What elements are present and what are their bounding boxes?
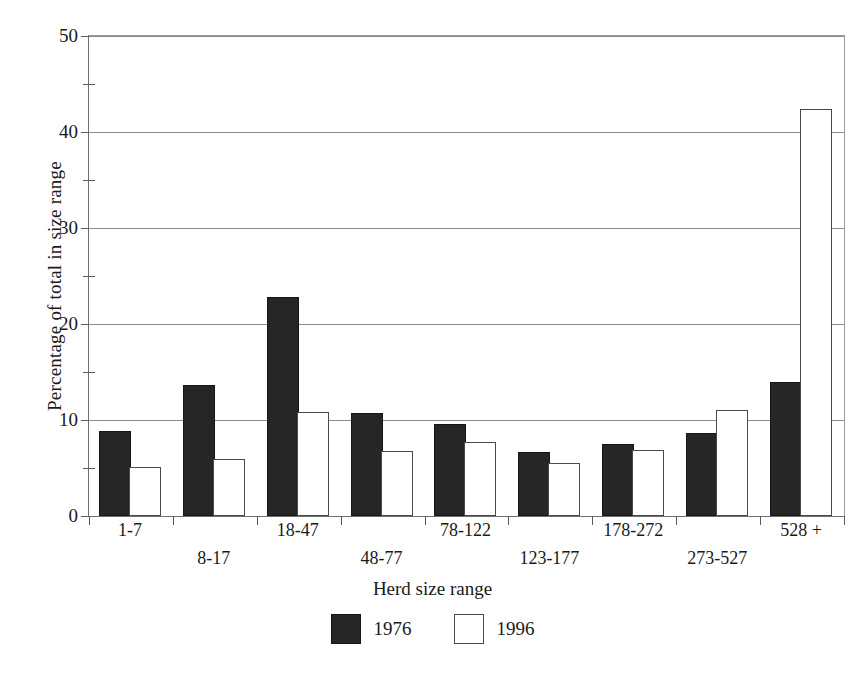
x-tick (341, 516, 342, 525)
x-axis-label-273-527: 273-527 (687, 548, 747, 569)
x-axis-label-8-17: 8-17 (197, 548, 230, 569)
bar-1996-528+ (800, 109, 832, 516)
y-tick-label-40: 40 (59, 121, 78, 143)
x-axis-label-48-77: 48-77 (361, 548, 403, 569)
bar-group (676, 36, 760, 516)
x-tick (592, 516, 593, 525)
x-axis-label-1-7: 1-7 (118, 520, 142, 541)
bar-group (89, 36, 173, 516)
x-tick (844, 516, 845, 525)
y-tick-20 (81, 324, 89, 325)
bar-1976-528+ (770, 382, 802, 516)
x-axis-title: Herd size range (0, 578, 865, 600)
legend-label-1996: 1996 (497, 618, 535, 640)
y-tick-40 (81, 132, 89, 133)
legend-item-1976: 1976 (331, 614, 412, 644)
y-tick-label-20: 20 (59, 313, 78, 335)
bar-group (760, 36, 844, 516)
y-tick-label-30: 30 (59, 217, 78, 239)
y-tick-50 (81, 36, 89, 37)
bar-group (341, 36, 425, 516)
y-tick-0 (81, 516, 89, 517)
y-tick-label-10: 10 (59, 409, 78, 431)
plot-area: 01020304050 (88, 35, 845, 517)
y-tick-10 (81, 420, 89, 421)
y-tick-label-50: 50 (59, 25, 78, 47)
bar-1976-78-122 (434, 424, 466, 516)
x-axis-label-178-272: 178-272 (603, 520, 663, 541)
bar-1976-1-7 (99, 431, 131, 516)
bar-1996-8-17 (213, 459, 245, 516)
bar-group (592, 36, 676, 516)
bar-1996-48-77 (381, 451, 413, 516)
x-tick (425, 516, 426, 525)
x-axis-label-78-122: 78-122 (440, 520, 491, 541)
x-axis-label-528+: 528 + (780, 520, 822, 541)
bar-1976-178-272 (602, 444, 634, 516)
chart-legend: 19761996 (0, 614, 865, 644)
bar-1996-273-527 (716, 410, 748, 516)
bar-1996-1-7 (129, 467, 161, 516)
y-axis-title: Percentage of total in size range (44, 46, 66, 526)
bar-chart: Percentage of total in size range 010203… (0, 0, 865, 688)
legend-item-1996: 1996 (454, 614, 535, 644)
bar-group (173, 36, 257, 516)
bar-1976-273-527 (686, 433, 718, 516)
x-tick (173, 516, 174, 525)
y-tick-label-0: 0 (69, 505, 79, 527)
bar-1976-123-177 (518, 452, 550, 516)
bar-1996-78-122 (464, 442, 496, 516)
y-tick-30 (81, 228, 89, 229)
x-axis-label-123-177: 123-177 (519, 548, 579, 569)
bar-group (257, 36, 341, 516)
legend-swatch-icon-1976 (331, 614, 361, 644)
bar-1996-18-47 (297, 412, 329, 516)
bar-group (425, 36, 509, 516)
bar-group (508, 36, 592, 516)
bar-1976-8-17 (183, 385, 215, 516)
x-tick (676, 516, 677, 525)
x-tick (760, 516, 761, 525)
legend-label-1976: 1976 (374, 618, 412, 640)
x-tick (508, 516, 509, 525)
x-tick (89, 516, 90, 525)
bar-1976-48-77 (351, 413, 383, 516)
bar-1996-178-272 (632, 450, 664, 516)
bar-1976-18-47 (267, 297, 299, 516)
x-axis-label-18-47: 18-47 (277, 520, 319, 541)
legend-swatch-icon-1996 (454, 614, 484, 644)
x-tick (257, 516, 258, 525)
bar-1996-123-177 (548, 463, 580, 516)
